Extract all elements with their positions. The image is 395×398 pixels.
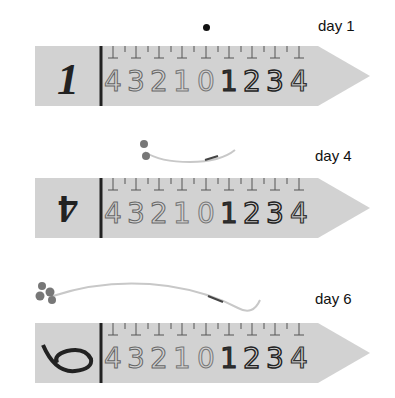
svg-text:0: 0 bbox=[197, 342, 215, 375]
svg-text:2: 2 bbox=[243, 342, 261, 375]
svg-text:3: 3 bbox=[266, 342, 284, 375]
svg-text:1: 1 bbox=[57, 55, 79, 104]
svg-text:4: 4 bbox=[290, 65, 308, 98]
long-sprout bbox=[28, 278, 268, 328]
svg-text:1: 1 bbox=[220, 197, 238, 230]
svg-text:4: 4 bbox=[290, 342, 308, 375]
svg-text:2: 2 bbox=[150, 342, 168, 375]
svg-text:1: 1 bbox=[173, 197, 191, 230]
svg-text:2: 2 bbox=[243, 65, 261, 98]
ruler-shape: 1 4 3 2 1 0 1 2 3 4 bbox=[35, 46, 375, 106]
ruler-marker: 4 4 3 2 1 0 1 2 3 4 bbox=[35, 178, 375, 238]
svg-text:3: 3 bbox=[266, 65, 284, 98]
svg-text:0: 0 bbox=[197, 65, 215, 98]
svg-text:2: 2 bbox=[243, 197, 261, 230]
svg-text:0: 0 bbox=[197, 197, 215, 230]
svg-text:2: 2 bbox=[150, 65, 168, 98]
svg-text:3: 3 bbox=[266, 197, 284, 230]
ruler-shape: 4 3 2 1 0 1 2 3 4 bbox=[35, 323, 375, 383]
svg-text:1: 1 bbox=[173, 65, 191, 98]
svg-text:3: 3 bbox=[127, 342, 145, 375]
ruler-marker: 1 4 3 2 1 0 1 2 3 4 bbox=[35, 46, 375, 106]
day-label: day 4 bbox=[315, 147, 352, 164]
svg-text:4: 4 bbox=[104, 65, 122, 98]
short-sprout bbox=[130, 132, 250, 172]
svg-text:4: 4 bbox=[104, 342, 122, 375]
svg-text:2: 2 bbox=[150, 197, 168, 230]
svg-text:1: 1 bbox=[220, 65, 238, 98]
svg-text:4: 4 bbox=[58, 187, 78, 232]
germination-figure: day 1 1 4 3 bbox=[0, 0, 395, 398]
ruler-marker: 4 3 2 1 0 1 2 3 4 bbox=[35, 323, 375, 383]
seed bbox=[203, 24, 210, 31]
svg-text:1: 1 bbox=[173, 342, 191, 375]
svg-text:3: 3 bbox=[127, 65, 145, 98]
day-label: day 1 bbox=[318, 17, 355, 34]
svg-text:4: 4 bbox=[104, 197, 122, 230]
day-label: day 6 bbox=[315, 290, 352, 307]
svg-text:1: 1 bbox=[220, 342, 238, 375]
svg-text:4: 4 bbox=[290, 197, 308, 230]
ruler-shape: 4 4 3 2 1 0 1 2 3 4 bbox=[35, 178, 375, 238]
svg-text:3: 3 bbox=[127, 197, 145, 230]
